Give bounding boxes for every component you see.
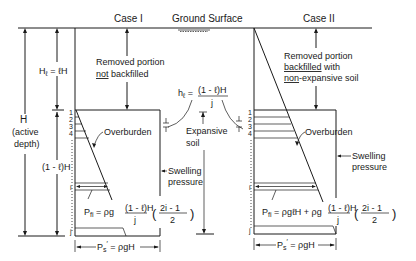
case-2-swelling-label: Swelling	[352, 151, 386, 161]
soil-label: soil	[186, 138, 200, 148]
case-2-formula: Pfi = ρgℓH + ρg	[262, 207, 322, 218]
svg-text:): )	[392, 206, 396, 221]
layer-2-label: 2	[69, 116, 73, 123]
layer-1-label: 1	[69, 109, 73, 116]
case-2-paren-num: 2i - 1	[362, 203, 382, 213]
expansive-label: Expansive	[186, 126, 228, 136]
case-1-overburden-label: Overburden	[104, 127, 152, 137]
case-2-frac-den: j	[336, 215, 339, 225]
case-1-frac-num: (1 - ℓ)H	[125, 203, 153, 213]
case-1-ps-label: Ps′ = ρgH	[97, 240, 135, 253]
hl-label: Hℓ = ℓH	[39, 66, 67, 77]
hl-formula: hℓ =	[178, 88, 193, 99]
layer-j-label: j	[69, 228, 72, 236]
one-minus-l-h-label: (1 - ℓ)H	[42, 162, 70, 172]
h-label: H	[20, 114, 27, 125]
case-2-removed-line1: Removed portion	[284, 51, 353, 61]
case-1-paren-den: 2	[170, 215, 175, 225]
case-2-ps-label: Ps′ = ρgH	[277, 238, 315, 251]
case-1-title: Case I	[114, 13, 143, 24]
case-1-frac-den: j	[133, 215, 136, 225]
case-2-layer-2-label: 2	[248, 116, 252, 123]
svg-text:(: (	[152, 206, 157, 221]
case-2-title: Case II	[303, 13, 335, 24]
layer-4-label: 4	[69, 130, 73, 137]
soil-hatch-icon	[178, 30, 210, 32]
case-1-swelling-label: Swelling	[168, 166, 202, 176]
depth-label: depth)	[14, 139, 40, 149]
case-2-layer-3-label: 3	[248, 123, 252, 130]
svg-text:(: (	[354, 206, 359, 221]
case-1-pressure-label: pressure	[168, 177, 203, 187]
ground-surface-label: Ground Surface	[172, 13, 243, 24]
case-1: Case I Removed portion not backfilled	[69, 13, 203, 253]
hl-frac-den: j	[210, 98, 213, 108]
case-2-paren-den: 2	[372, 215, 377, 225]
case-2-frac-num: (1 - ℓ)H	[328, 203, 356, 213]
left-dimensions: H (active depth) Hℓ = ℓH (1 - ℓ)H	[12, 28, 76, 236]
case-1-removed-line1: Removed portion	[96, 57, 165, 67]
case-2-layer-1-label: 1	[248, 109, 252, 116]
case-1-paren-num: 2i - 1	[160, 203, 180, 213]
hl-frac-num: (1 - ℓ)H	[198, 85, 226, 95]
case-2-removed-line3: non-expansive soil	[284, 73, 359, 83]
case-2-pressure-label: pressure	[352, 162, 387, 172]
case-2-layer-j-label: j	[248, 227, 251, 235]
case-2-overburden-label: Overburden	[305, 127, 353, 137]
swelling-pressure-diagram: Ground Surface H (active depth) Hℓ = ℓH …	[0, 0, 416, 261]
case-2: Case II Removed portion backfilled with …	[248, 13, 396, 251]
layer-3-label: 3	[69, 123, 73, 130]
active-label: (active	[12, 127, 39, 137]
svg-text:): )	[190, 206, 194, 221]
case-2-removed-line2: backfilled with	[284, 62, 340, 72]
case-1-formula: Pfi = ρg	[84, 207, 114, 218]
case-1-removed-line2: not backfilled	[96, 69, 149, 79]
case-2-layer-4-label: 4	[248, 130, 252, 137]
